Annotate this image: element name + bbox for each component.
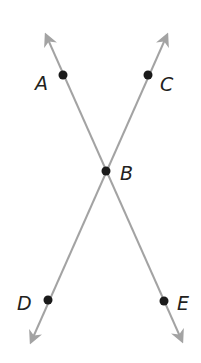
labels-layer: ACBDE (17, 72, 189, 314)
point-c (144, 71, 153, 80)
point-label-c: C (160, 73, 174, 95)
point-a (59, 71, 68, 80)
point-label-d: D (17, 292, 32, 314)
point-e (160, 297, 169, 306)
point-label-e: E (177, 292, 189, 314)
point-label-a: A (33, 72, 48, 94)
point-b (102, 167, 111, 176)
point-d (44, 296, 53, 305)
intersecting-lines-diagram: ACBDE (0, 0, 201, 363)
point-label-b: B (120, 162, 133, 184)
line-CD (31, 35, 167, 342)
